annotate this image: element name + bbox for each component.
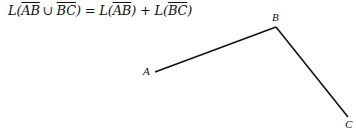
segment-ab-line xyxy=(155,27,276,72)
point-b-label: B xyxy=(272,11,279,23)
point-a-label: A xyxy=(142,65,150,77)
point-c-label: C xyxy=(345,118,353,130)
polyline-diagram: A B C xyxy=(0,0,356,130)
segment-bc-line xyxy=(276,27,348,117)
